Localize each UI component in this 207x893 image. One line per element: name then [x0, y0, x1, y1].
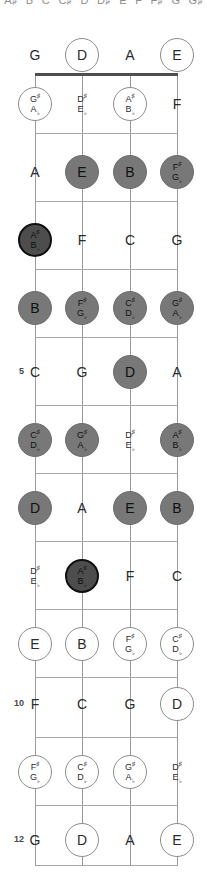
note-marker[interactable]: A — [65, 491, 99, 525]
header-note: F♯ — [151, 0, 163, 6]
note-marker[interactable]: C♯D♭ — [18, 423, 52, 457]
note-marker[interactable]: B — [113, 155, 147, 189]
header-note: C — [42, 0, 50, 6]
note-marker[interactable]: C — [65, 687, 99, 721]
string-a — [130, 73, 131, 865]
note-marker[interactable]: E — [160, 823, 194, 857]
fret-line-3 — [35, 269, 178, 270]
note-marker[interactable]: D — [18, 491, 52, 525]
note-marker[interactable]: D♯E♭ — [65, 87, 99, 121]
clipped-chromatic-header: A♯BCC♯DD♯EFF♯GG♯ — [0, 0, 207, 7]
note-marker[interactable]: F — [113, 559, 147, 593]
note-marker[interactable]: E — [160, 38, 194, 72]
header-note: D — [80, 0, 88, 6]
note-marker[interactable]: D♯E♭ — [18, 559, 52, 593]
fretboard-diagram: A♯BCC♯DD♯EFF♯GG♯ 571012 GDAEG♯A♭D♯E♭A♯B♭… — [0, 0, 207, 893]
note-marker[interactable]: G — [18, 823, 52, 857]
header-note: F — [135, 0, 142, 6]
note-marker[interactable]: G — [65, 355, 99, 389]
fret-line-11 — [35, 805, 178, 806]
nut — [35, 73, 178, 76]
note-marker[interactable]: G♯A♭ — [18, 87, 52, 121]
note-marker[interactable]: E — [18, 627, 52, 661]
note-marker[interactable]: F♯G♭ — [113, 627, 147, 661]
fret-line-6 — [35, 473, 178, 474]
note-marker[interactable]: A♯B♭ — [65, 559, 99, 593]
fret-line-4 — [35, 337, 178, 338]
note-marker[interactable]: G — [160, 223, 194, 257]
note-marker[interactable]: F♯G♭ — [160, 155, 194, 189]
note-marker[interactable]: D — [113, 355, 147, 389]
note-marker[interactable]: F — [65, 223, 99, 257]
header-note: G♯ — [189, 0, 203, 6]
note-marker[interactable]: F — [18, 687, 52, 721]
note-marker[interactable]: C — [160, 559, 194, 593]
header-note: E — [119, 0, 126, 6]
header-note: G — [171, 0, 180, 6]
fret-line-10 — [35, 737, 178, 738]
note-marker[interactable]: D — [160, 687, 194, 721]
fret-line-8 — [35, 609, 178, 610]
header-note: A♯ — [4, 0, 17, 6]
note-marker[interactable]: B — [65, 627, 99, 661]
note-marker[interactable]: G — [18, 38, 52, 72]
note-marker[interactable]: D♯E♭ — [113, 423, 147, 457]
fret-line-9 — [35, 677, 178, 678]
note-marker[interactable]: B — [18, 291, 52, 325]
note-marker[interactable]: F — [160, 87, 194, 121]
fret-line-5 — [35, 405, 178, 406]
note-marker[interactable]: D — [65, 38, 99, 72]
fret-line-1 — [35, 133, 178, 134]
note-marker[interactable]: A♯B♭ — [160, 423, 194, 457]
note-marker[interactable]: C♯D♭ — [65, 755, 99, 789]
string-e — [177, 73, 178, 865]
string-d — [82, 73, 83, 865]
note-marker[interactable]: G♯A♭ — [113, 755, 147, 789]
note-marker[interactable]: F♯G♭ — [65, 291, 99, 325]
note-marker[interactable]: D♯E♭ — [160, 755, 194, 789]
note-marker[interactable]: B — [160, 491, 194, 525]
fret-line-2 — [35, 201, 178, 202]
fret-line-12 — [35, 865, 178, 866]
header-note: C♯ — [58, 0, 71, 6]
note-marker[interactable]: C♯D♭ — [113, 291, 147, 325]
note-marker[interactable]: A — [113, 38, 147, 72]
note-marker[interactable]: C — [113, 223, 147, 257]
note-marker[interactable]: G♯A♭ — [65, 423, 99, 457]
header-note: B — [26, 0, 33, 6]
fret-line-7 — [35, 541, 178, 542]
note-marker[interactable]: G — [113, 687, 147, 721]
note-marker[interactable]: C♯D♭ — [160, 627, 194, 661]
note-marker[interactable]: A♯B♭ — [18, 223, 52, 257]
note-marker[interactable]: A — [113, 823, 147, 857]
note-marker[interactable]: A — [160, 355, 194, 389]
note-marker[interactable]: E — [113, 491, 147, 525]
note-marker[interactable]: G♯A♭ — [160, 291, 194, 325]
string-g — [35, 73, 36, 865]
header-note: D♯ — [97, 0, 110, 6]
note-marker[interactable]: A♯B♭ — [113, 87, 147, 121]
note-marker[interactable]: F♯G♭ — [18, 755, 52, 789]
note-marker[interactable]: A — [18, 155, 52, 189]
note-marker[interactable]: D — [65, 823, 99, 857]
note-marker[interactable]: E — [65, 155, 99, 189]
note-marker[interactable]: C — [18, 355, 52, 389]
